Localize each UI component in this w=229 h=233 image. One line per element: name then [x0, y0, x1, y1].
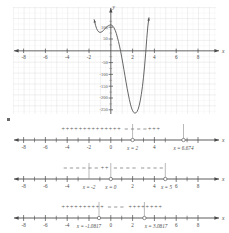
sign-plus: +	[117, 126, 121, 132]
sign-plus: +	[100, 204, 104, 210]
sign-row: ++++++++++++++++++	[61, 204, 162, 210]
critical-point-label: x = 5	[160, 184, 172, 190]
x-tick-label: 8	[197, 54, 200, 60]
tick-label: -4	[65, 183, 70, 189]
axis-arrow-left-icon	[14, 177, 19, 180]
y-axis-label: y	[112, 4, 116, 10]
number-line-axis-label: x	[221, 176, 225, 182]
x-tick-label: -4	[65, 54, 70, 60]
x-axis-label: x	[221, 48, 225, 54]
open-point-marker	[109, 177, 112, 180]
cartesian-graph-svg: x y -8 -6 -4 -2 2	[0, 0, 229, 116]
y-tick-label: -200	[100, 95, 109, 100]
open-point-marker	[164, 177, 167, 180]
x-tick-label: 4	[153, 54, 156, 60]
axis-arrow-right-icon	[214, 138, 219, 141]
number-line-axis-label: x	[221, 137, 225, 143]
tick-label: 6	[175, 183, 178, 189]
critical-point-label: x = 6.674	[172, 145, 193, 151]
open-point-marker	[182, 138, 185, 141]
critical-point-label: x = 0	[104, 184, 116, 190]
tick-label: 8	[197, 222, 200, 228]
critical-point-label: x = 2	[126, 145, 138, 151]
critical-point-label: x = -2	[82, 184, 96, 190]
y-tick-label: -250	[100, 107, 109, 112]
open-point-marker	[143, 216, 146, 219]
x-tick-label: -6	[43, 54, 48, 60]
grid-major	[13, 7, 216, 114]
tick-label: -8	[21, 222, 26, 228]
sign-chart-2: x -8 -6 -4 2 4 6	[0, 155, 229, 194]
x-tick-label: 6	[175, 54, 178, 60]
tick-label: 6	[175, 222, 178, 228]
critical-point-label: x = -1.0817	[76, 223, 102, 229]
sign-plus: +	[159, 204, 163, 210]
tick-label: -4	[65, 222, 70, 228]
sign-row: ++	[64, 165, 163, 171]
sign-chart-3-svg: x -8 -6 -4 0 2	[0, 194, 229, 233]
tick-label: 4	[153, 183, 156, 189]
open-point-marker	[97, 216, 100, 219]
sign-chart-1-svg: x -8 -6 -4 -2 0	[0, 116, 229, 155]
axis-arrow-left-icon	[14, 138, 19, 141]
sign-chart-3: x -8 -6 -4 0 2	[0, 194, 229, 233]
axis-arrow-right-icon	[214, 177, 219, 180]
x-tick-label: 2	[131, 54, 134, 60]
tick-label: 0	[110, 144, 113, 150]
tick-label: -2	[87, 144, 92, 150]
tick-label: 2	[131, 222, 134, 228]
figure-panel: x y -8 -6 -4 -2 2	[0, 0, 229, 233]
axis-arrow-left-icon	[14, 216, 19, 219]
tick-label: 4	[153, 144, 156, 150]
y-tick-label: -50	[102, 60, 109, 65]
sign-row: +++++++++++++++++	[61, 126, 160, 132]
tick-label: -6	[43, 222, 48, 228]
tick-label: 0	[110, 222, 113, 228]
sign-chart-2-svg: x -8 -6 -4 2 4 6	[0, 155, 229, 194]
y-tick-label: -150	[100, 84, 109, 89]
x-tick-label: -8	[21, 54, 26, 60]
tick-label: 2	[131, 183, 134, 189]
sign-plus: +	[105, 165, 109, 171]
critical-point-label: x = 3.0817	[144, 223, 168, 229]
sign-chart-1: x -8 -6 -4 -2 0	[0, 116, 229, 155]
sign-plus: +	[157, 126, 161, 132]
open-point-marker	[131, 138, 134, 141]
tick-label: 8	[197, 183, 200, 189]
tick-label: -8	[21, 144, 26, 150]
axis-arrow-right-icon	[214, 216, 219, 219]
y-tick-label: -100	[100, 72, 109, 77]
tick-label: -4	[65, 144, 70, 150]
bullet-marker-icon	[7, 118, 10, 121]
tick-label: -6	[43, 183, 48, 189]
number-line-axis-label: x	[221, 215, 225, 221]
tick-label: -6	[43, 144, 48, 150]
tick-label: -8	[21, 183, 26, 189]
x-tick-label: -2	[87, 54, 92, 60]
cartesian-graph: x y -8 -6 -4 -2 2	[0, 0, 229, 116]
